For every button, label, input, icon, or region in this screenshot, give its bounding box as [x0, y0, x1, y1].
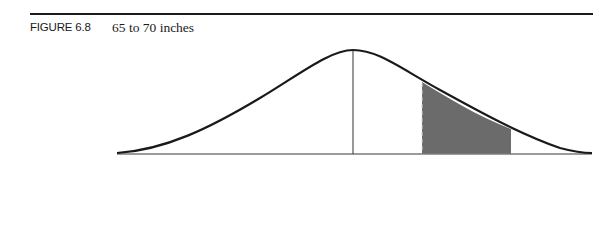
mean-label: μ = 64 Z = 0	[338, 157, 372, 189]
lower-bound-label: X = 65 Z = – .4167	[410, 157, 471, 189]
bell-curve	[117, 50, 592, 153]
shaded-area	[422, 82, 511, 154]
upper-bound-label: X = 70 Z = + 2.50	[499, 157, 554, 189]
mean-x-label: μ = 64	[338, 187, 372, 189]
upper-x-label: X = 70	[499, 187, 554, 189]
lower-x-label: X = 65	[410, 187, 471, 189]
